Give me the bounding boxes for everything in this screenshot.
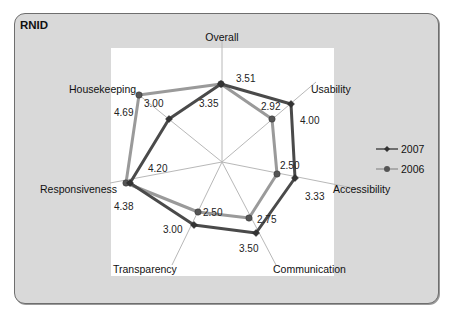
axis-label-responsiveness: Responsiveness bbox=[40, 183, 117, 195]
axis-label-housekeeping: Housekeeping bbox=[69, 83, 136, 95]
value-label-communication-2007: 3.50 bbox=[239, 243, 259, 254]
point-2006-transparency bbox=[195, 209, 201, 215]
axis-label-usability: Usability bbox=[311, 83, 351, 95]
value-label-housekeeping-2007: 3.00 bbox=[144, 98, 164, 109]
legend-label-2006: 2006 bbox=[401, 163, 425, 175]
value-label-responsiveness-2006: 4.20 bbox=[148, 163, 168, 174]
point-2006-communication bbox=[246, 215, 252, 221]
value-label-responsiveness-2007: 4.38 bbox=[114, 201, 134, 212]
radar-chart: Overall Usability Accessibility Communic… bbox=[0, 0, 455, 318]
value-label-accessibility-2006: 2.50 bbox=[280, 160, 300, 171]
point-2006-housekeeping bbox=[136, 92, 142, 98]
axis-label-transparency: Transparency bbox=[113, 263, 178, 275]
value-label-housekeeping-2006: 4.69 bbox=[114, 107, 134, 118]
legend: 2007 2006 bbox=[376, 143, 425, 175]
value-label-communication-2006: 2.75 bbox=[257, 214, 277, 225]
axis-label-accessibility: Accessibility bbox=[333, 183, 391, 195]
legend-item-2006: 2006 bbox=[376, 163, 425, 175]
value-label-usability-2007: 4.00 bbox=[300, 115, 320, 126]
value-label-overall-2007: 3.51 bbox=[236, 73, 256, 84]
circle-marker-icon bbox=[384, 166, 390, 172]
point-2006-usability bbox=[269, 116, 275, 122]
legend-item-2007: 2007 bbox=[376, 143, 425, 155]
point-2006-accessibility bbox=[274, 171, 280, 177]
value-label-transparency-2007: 3.00 bbox=[163, 224, 183, 235]
value-label-usability-2006: 2.92 bbox=[261, 101, 281, 112]
legend-label-2007: 2007 bbox=[401, 143, 425, 155]
value-label-accessibility-2007: 3.33 bbox=[305, 191, 325, 202]
axis-label-communication: Communication bbox=[273, 263, 346, 275]
value-label-overall-2006: 3.35 bbox=[199, 98, 219, 109]
value-label-transparency-2006: 2.50 bbox=[203, 207, 223, 218]
axis-label-overall: Overall bbox=[205, 31, 238, 43]
diamond-marker-icon bbox=[384, 146, 390, 152]
